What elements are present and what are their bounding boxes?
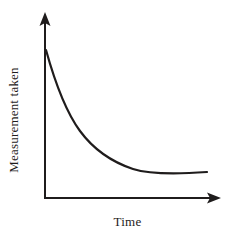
y-axis-label: Measurement taken [0, 0, 28, 240]
y-axis-label-text: Measurement taken [6, 67, 22, 173]
chart-figure: Measurement taken Time [0, 0, 233, 240]
data-series-line [46, 50, 207, 174]
x-axis-label: Time [0, 214, 233, 230]
chart-plot-area [0, 0, 233, 240]
